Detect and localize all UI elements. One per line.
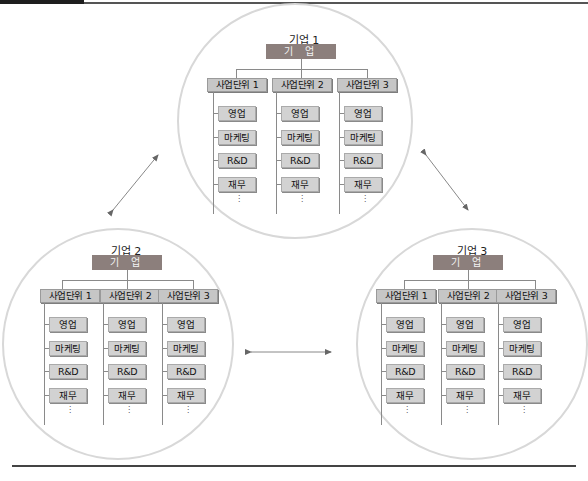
function-rnd: R&D [108,364,146,379]
company-1-org-chart: 기업 1 기 업 사업단위 1 사업단위 2 사업단위 3 영업 마케팅 R&D… [204,31,404,231]
business-unit-2: 사업단위 2 [100,289,160,303]
function-rnd: R&D [344,153,382,168]
connector [441,303,442,425]
connector [381,303,382,425]
function-sales: 영업 [108,317,146,332]
function-marketing: 마케팅 [281,130,319,145]
business-unit-1: 사업단위 1 [40,289,100,303]
function-marketing: 마케팅 [49,341,87,356]
company-3-org-chart: 기업 3 기 업 사업단위 1 사업단위 2 사업단위 3 영업 마케팅 R&D… [362,242,562,442]
connector [468,270,469,280]
connector [404,280,536,281]
arrow-company1-company2 [113,155,158,210]
function-rnd: R&D [281,153,319,168]
connector [213,92,214,214]
connector [44,303,45,425]
more-dots: ⋮ [235,196,239,202]
more-dots: ⋮ [298,196,302,202]
function-rnd: R&D [218,153,256,168]
function-finance: 재무 [167,388,205,403]
connector [498,303,499,425]
function-sales: 영업 [344,106,382,121]
function-finance: 재무 [344,177,382,192]
function-sales: 영업 [446,317,484,332]
corp-box: 기 업 [433,255,503,270]
business-unit-3: 사업단위 3 [158,289,218,303]
function-marketing: 마케팅 [386,341,424,356]
function-sales: 영업 [167,317,205,332]
function-sales: 영업 [218,106,256,121]
function-sales: 영업 [281,106,319,121]
connector [162,303,163,425]
function-rnd: R&D [167,364,205,379]
connector [367,69,368,78]
connector [301,69,302,78]
connector [103,303,104,425]
business-unit-3: 사업단위 3 [337,78,397,92]
function-marketing: 마케팅 [446,341,484,356]
function-marketing: 마케팅 [108,341,146,356]
function-sales: 영업 [503,317,541,332]
function-finance: 재무 [503,388,541,403]
company-2-org-chart: 기업 2 기 업 사업단위 1 사업단위 2 사업단위 3 영업 마케팅 R&D… [24,242,224,442]
function-finance: 재무 [49,388,87,403]
more-dots: ⋮ [184,407,188,413]
function-finance: 재무 [386,388,424,403]
function-marketing: 마케팅 [218,130,256,145]
function-marketing: 마케팅 [503,341,541,356]
connector [62,280,63,289]
function-sales: 영업 [386,317,424,332]
business-unit-1: 사업단위 1 [376,289,436,303]
connector [127,270,128,280]
function-sales: 영업 [49,317,87,332]
connector [236,69,237,78]
function-rnd: R&D [503,364,541,379]
connector [193,280,194,289]
business-unit-3: 사업단위 3 [496,289,556,303]
connector [468,280,469,289]
function-marketing: 마케팅 [344,130,382,145]
connector [339,92,340,214]
business-unit-1: 사업단위 1 [207,78,267,92]
footer-rule [12,465,576,467]
function-marketing: 마케팅 [167,341,205,356]
more-dots: ⋮ [361,196,365,202]
connector [62,280,194,281]
connector [236,69,368,70]
function-finance: 재무 [446,388,484,403]
more-dots: ⋮ [125,407,129,413]
arrow-company1-company3 [426,155,468,210]
corp-box: 기 업 [266,44,336,59]
function-finance: 재무 [281,177,319,192]
connector [535,280,536,289]
more-dots: ⋮ [463,407,467,413]
corp-box: 기 업 [92,255,162,270]
more-dots: ⋮ [403,407,407,413]
function-rnd: R&D [386,364,424,379]
function-finance: 재무 [108,388,146,403]
connector [276,92,277,214]
more-dots: ⋮ [66,407,70,413]
business-unit-2: 사업단위 2 [438,289,498,303]
connector [301,59,302,69]
more-dots: ⋮ [520,407,524,413]
connector [127,280,128,289]
function-rnd: R&D [49,364,87,379]
function-rnd: R&D [446,364,484,379]
function-finance: 재무 [218,177,256,192]
business-unit-2: 사업단위 2 [272,78,332,92]
connector [404,280,405,289]
